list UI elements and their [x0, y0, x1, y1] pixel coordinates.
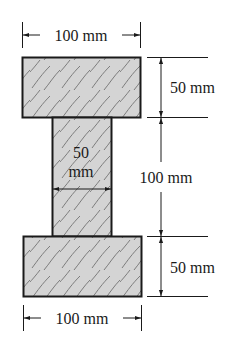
- bottom-width-label: 100 mm: [56, 310, 109, 327]
- bottom-height-dimension: 50 mm: [147, 237, 215, 297]
- top-height-label: 50 mm: [170, 79, 215, 96]
- top-flange: [23, 58, 141, 118]
- bottom-flange: [24, 237, 142, 297]
- top-width-dimension: 100 mm: [23, 22, 141, 48]
- web-height-label: 100 mm: [140, 169, 193, 186]
- web-width-label-line1: 50: [73, 144, 89, 161]
- web-width-label-line2: mm: [69, 163, 94, 180]
- top-height-dimension: 50 mm: [147, 58, 215, 118]
- bottom-width-dimension: 100 mm: [24, 305, 142, 331]
- top-width-label: 100 mm: [55, 27, 108, 44]
- bottom-height-label: 50 mm: [170, 259, 215, 276]
- web-height-dimension: 100 mm: [140, 118, 208, 237]
- cross-section-diagram: 100 mm 50 mm 50 mm 100 mm 50 mm 100 mm: [0, 0, 247, 352]
